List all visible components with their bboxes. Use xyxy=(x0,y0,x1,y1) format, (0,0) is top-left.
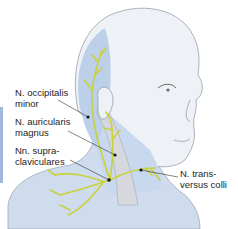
label-n-transversus-colli: N. trans- versus colli xyxy=(180,168,227,190)
anatomy-illustration xyxy=(0,0,238,229)
label-line: Nn. supra- xyxy=(15,145,65,156)
label-n-auricularis-magnus: N. auricularis magnus xyxy=(15,116,70,138)
label-line: N. auricularis xyxy=(15,116,70,127)
label-line: minor xyxy=(15,98,68,109)
label-nn-supraclaviculares: Nn. supra- claviculares xyxy=(15,145,65,167)
label-line: N. trans- xyxy=(180,168,227,179)
label-line: versus colli xyxy=(180,179,227,190)
label-line: N. occipitalis xyxy=(15,87,68,98)
label-line: magnus xyxy=(15,127,70,138)
label-line: claviculares xyxy=(15,156,65,167)
label-n-occipitalis-minor: N. occipitalis minor xyxy=(15,87,68,109)
pupil xyxy=(166,88,169,91)
